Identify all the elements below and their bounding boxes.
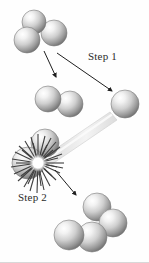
arrow-step1-down <box>44 51 56 77</box>
step-1-label: Step 1 <box>88 50 117 62</box>
molecule-final-product <box>54 193 127 252</box>
molecule-product-diatomic <box>35 86 83 117</box>
arrow-step2 <box>55 170 76 195</box>
reaction-mechanism-figure: Step 1 Step 2 <box>0 0 149 263</box>
molecule-free-atom <box>111 90 139 118</box>
step-2-label: Step 2 <box>18 191 47 203</box>
molecule-reactant-triatomic <box>14 10 67 53</box>
diagram-canvas <box>0 0 149 263</box>
